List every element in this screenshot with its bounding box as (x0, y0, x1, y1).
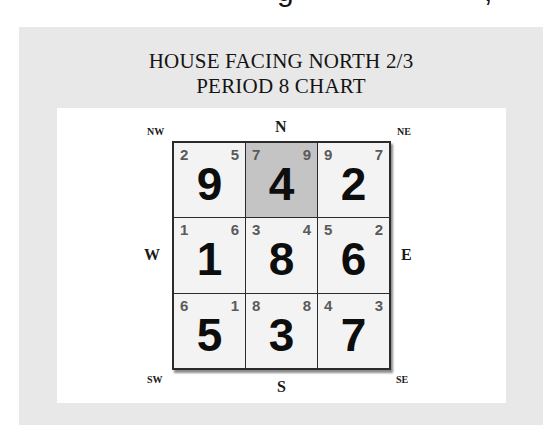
grid-cell-se: 4 3 7 (318, 294, 389, 368)
compass-label-w: W (144, 246, 160, 264)
chart-panel: HOUSE FACING NORTH 2/3 PERIOD 8 CHART NW… (19, 27, 543, 425)
cropped-heading: g , (0, 0, 556, 4)
compass-label-ne: NE (397, 126, 411, 137)
compass-label-s: S (277, 378, 286, 396)
base-star: 5 (174, 309, 245, 361)
compass-label-sw: SW (147, 374, 163, 385)
compass-label-e: E (401, 246, 412, 264)
base-star: 6 (318, 233, 389, 285)
grid-cell-nw: 2 5 9 (174, 143, 245, 217)
grid-cell-ne: 9 7 2 (318, 143, 389, 217)
lo-shu-grid: 2 5 9 7 9 4 9 7 2 1 6 1 3 4 8 (172, 141, 391, 370)
chart-title-line-2: PERIOD 8 CHART (19, 74, 543, 99)
compass-label-nw: NW (147, 126, 164, 137)
base-star: 1 (174, 233, 245, 285)
base-star: 2 (318, 158, 389, 210)
base-star: 8 (246, 233, 317, 285)
chart-title: HOUSE FACING NORTH 2/3 PERIOD 8 CHART (19, 49, 543, 99)
compass-label-n: N (275, 118, 287, 136)
cropped-heading-comma: , (484, 0, 492, 8)
base-star: 9 (174, 158, 245, 210)
cropped-heading-glyph: g (277, 0, 294, 8)
chart-title-line-1: HOUSE FACING NORTH 2/3 (19, 49, 543, 74)
compass-label-se: SE (396, 374, 408, 385)
base-star: 4 (246, 158, 317, 210)
grid-cell-w: 1 6 1 (174, 218, 245, 292)
grid-cell-center: 3 4 8 (246, 218, 317, 292)
grid-cell-n-facing: 7 9 4 (246, 143, 317, 217)
flying-star-diagram: NW N NE W E SW S SE 2 5 9 7 9 4 9 7 2 (57, 108, 506, 403)
grid-cell-sw: 6 1 5 (174, 294, 245, 368)
base-star: 7 (318, 309, 389, 361)
grid-cell-s: 8 8 3 (246, 294, 317, 368)
base-star: 3 (246, 309, 317, 361)
grid-cell-e: 5 2 6 (318, 218, 389, 292)
